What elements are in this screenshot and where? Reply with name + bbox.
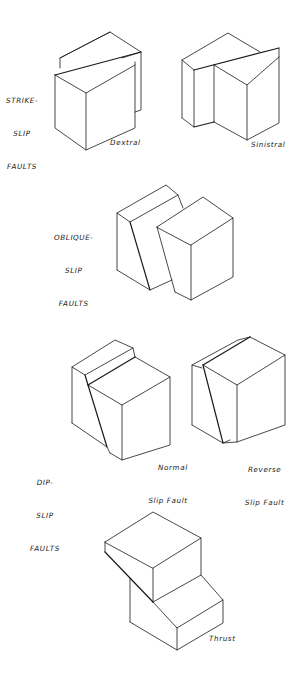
sinistral-caption: Sinistral (251, 139, 285, 150)
label-line: SLIP (30, 510, 60, 521)
label-line: FAULTS (30, 543, 60, 554)
caption-line: Reverse (245, 464, 284, 475)
reverse-fault-block (192, 337, 285, 443)
label-line: OBLIQUE- (54, 232, 94, 243)
oblique-slip-block (117, 185, 233, 300)
label-line: SLIP (54, 265, 94, 276)
caption-line: Normal (148, 462, 188, 473)
label-line: DIP- (30, 477, 60, 488)
dextral-block (55, 32, 141, 150)
caption-line: Slip Fault (148, 495, 188, 506)
caption-line: Slip Fault (245, 497, 284, 508)
reverse-slip-fault-caption: Reverse Slip Fault (245, 442, 284, 519)
sinistral-block (182, 33, 279, 140)
label-line: FAULTS (54, 298, 94, 309)
dip-slip-faults-label: DIP- SLIP FAULTS (30, 455, 60, 565)
oblique-slip-faults-label: OBLIQUE- SLIP FAULTS (54, 210, 94, 320)
label-line: FAULTS (6, 161, 38, 172)
normal-slip-fault-caption: Normal Slip Fault (148, 440, 188, 517)
fault-diagram (0, 0, 304, 677)
label-line: STRIKE- (6, 95, 38, 106)
label-line: SLIP (6, 128, 38, 139)
thrust-caption: Thrust (209, 633, 236, 644)
thrust-fault-block (105, 512, 223, 650)
dextral-caption: Dextral (110, 137, 141, 148)
strike-slip-faults-label: STRIKE- SLIP FAULTS (6, 73, 38, 183)
